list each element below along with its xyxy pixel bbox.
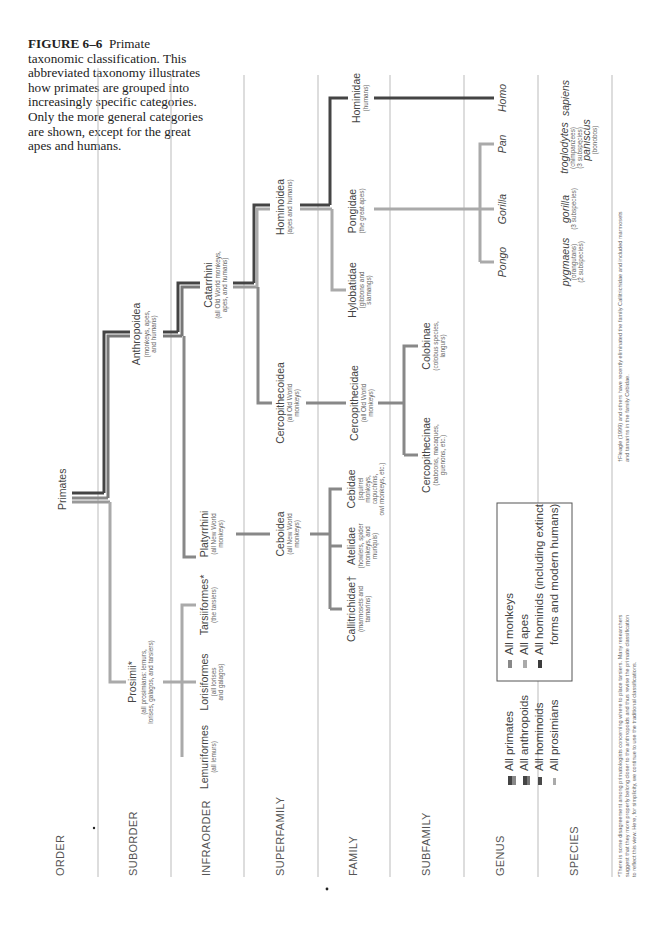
taxon-atelidae: Atelidae (howlers, spider monkeys, and m… [345, 523, 379, 569]
print-mark [93, 827, 95, 829]
footnotes: *There is some disagreement among primat… [617, 211, 637, 877]
taxon-hylobatidae: Hylobatidae (gibbons and siamangs) [346, 262, 373, 318]
svg-text:and galagos): and galagos) [217, 664, 225, 701]
svg-text:Hominidae: Hominidae [350, 73, 362, 123]
taxon-lemuriformes: Lemuriformes (all lemurs) [198, 725, 218, 789]
svg-text:monkeys): monkeys) [367, 389, 375, 417]
taxon-hominoidea: Hominoidea (apes and humans) [274, 179, 294, 235]
svg-text:Pongidae: Pongidae [346, 189, 358, 234]
taxon-labels: Primates Prosimii* (all prosimians: lemu… [56, 73, 599, 789]
rank-labels: ORDER SUBORDER INFRAORDER SUPERFAMILY FA… [54, 796, 580, 876]
svg-text:and humans): and humans) [150, 315, 158, 352]
taxon-primates: Primates [56, 469, 68, 510]
genus-homo: Homo [496, 84, 508, 112]
svg-text:(the great apes): (the great apes) [358, 188, 366, 233]
svg-text:tamarins): tamarins) [364, 596, 372, 623]
svg-text:Prosimii*: Prosimii* [126, 661, 138, 702]
taxon-cercopithecinae: Cercopithecinae (baboons, macaques, guen… [420, 417, 447, 493]
species-pygmaeus: pygmaeus (orangutans) (2 subspecies) [559, 237, 585, 287]
swatch-prosimians-icon [553, 778, 556, 785]
svg-text:(humans): (humans) [362, 85, 370, 112]
species-sapiens: sapiens [559, 79, 571, 116]
taxon-tarsiiformes: Tarsiiformes* (the tarsiers) [198, 575, 218, 636]
svg-text:(apes and humans): (apes and humans) [286, 179, 294, 234]
rank-genus: GENUS [494, 835, 506, 876]
svg-text:Colobinae: Colobinae [420, 322, 432, 369]
taxon-callitrichidae: Callitrichidae† (marmosets and tamarins) [345, 576, 372, 642]
svg-text:siamangs): siamangs) [365, 275, 373, 304]
species-gorilla: gorilla (3 subspecies) [559, 188, 578, 230]
print-mark [326, 888, 329, 891]
swatch-hominids-icon [538, 660, 542, 668]
svg-text:(2 subspecies): (2 subspecies) [577, 241, 585, 283]
taxon-anthropoidea: Anthropoidea (monkeys, apes, and humans) [130, 303, 158, 366]
legend-all-hominoids: All hominoids [533, 702, 545, 771]
svg-text:monkeys): monkeys) [293, 520, 301, 548]
rank-infraorder: INFRAORDER [200, 800, 212, 876]
svg-text:lorises, galagos, and tarsiers: lorises, galagos, and tarsiers) [147, 640, 155, 723]
svg-text:apes, and humans): apes, and humans) [221, 258, 229, 313]
genus-pongo: Pongo [496, 247, 508, 278]
svg-text:Catarrhini: Catarrhini [202, 262, 214, 308]
footnote-star-line3: to reflect this view. Here, for simplici… [631, 661, 637, 877]
taxon-lorisiformes: Lorisiformes (all lorises and galagos) [198, 653, 225, 710]
svg-text:Anthropoidea: Anthropoidea [130, 303, 142, 366]
genus-labels: Pongo Gorilla Pan Homo [496, 84, 508, 277]
species-paniscus: paniscus (bonobos) [580, 119, 599, 162]
taxon-ceboidea: Ceboidea (all New World monkeys) [274, 511, 301, 556]
svg-text:langurs): langurs) [439, 334, 447, 357]
legend-all-hominids-cont: forms and modern humans) [548, 504, 560, 645]
taxon-pongidae: Pongidae (the great apes) [346, 188, 366, 233]
svg-text:Atelidae: Atelidae [345, 527, 357, 565]
taxon-cebidae: Cebidae (squirrel monkeys, capuchins, ow… [345, 463, 386, 516]
svg-text:(3 subspecies): (3 subspecies) [570, 188, 578, 230]
legend-all-hominids: All hominids (including extinct [533, 503, 545, 655]
rank-superfamily: SUPERFAMILY [274, 796, 286, 876]
svg-text:Cebidae: Cebidae [345, 469, 357, 508]
footnote-star-line2: suggest that they more properly belong c… [624, 615, 630, 877]
svg-text:Hylobatidae: Hylobatidae [346, 262, 358, 318]
rank-order: ORDER [54, 835, 66, 876]
swatch-primates-icon [508, 776, 512, 785]
taxon-cercopithecidae: Cercopithecidae (all Old World monkeys) [348, 365, 375, 441]
taxon-hominidae: Hominidae (humans) [350, 73, 370, 123]
svg-text:Tarsiiformes*: Tarsiiformes* [198, 575, 210, 636]
svg-text:monkeys): monkeys) [217, 520, 225, 548]
rank-suborder: SUBORDER [127, 811, 139, 876]
taxon-platyrrhini: Platyrrhini (all New World monkeys) [198, 511, 225, 558]
svg-text:monkeys): monkeys) [293, 389, 301, 417]
footnote-star-line1: *There is some disagreement among primat… [617, 614, 623, 877]
svg-text:Hominoidea: Hominoidea [274, 179, 286, 235]
svg-text:(all lemurs): (all lemurs) [210, 741, 218, 773]
svg-text:guenons, etc.): guenons, etc.) [439, 435, 447, 476]
taxonomy-diagram: ORDER SUBORDER INFRAORDER SUPERFAMILY FA… [0, 0, 672, 927]
taxon-prosimii: Prosimii* (all prosimians: lemurs, loris… [126, 640, 155, 723]
rank-subfamily: SUBFAMILY [420, 812, 432, 876]
svg-text:Cercopithecidae: Cercopithecidae [348, 365, 360, 441]
svg-text:Cercopithecinae: Cercopithecinae [420, 417, 432, 493]
swatch-hominoids-icon [538, 777, 542, 785]
legend: All primates All anthropoids All hominoi… [497, 503, 572, 785]
rank-family: FAMILY [347, 836, 359, 876]
legend-all-prosimians: All prosimians [548, 699, 560, 771]
swatch-anthropoids-icon [523, 776, 527, 785]
svg-text:Lemuriformes: Lemuriformes [198, 725, 210, 789]
svg-text:Cercopithecoidea: Cercopithecoidea [274, 362, 286, 444]
svg-text:(the tarsiers): (the tarsiers) [210, 587, 218, 623]
taxon-cercopithecoidea: Cercopithecoidea (all Old World monkeys) [274, 362, 301, 444]
footnote-dagger-line1: †Fleagle (1999) and others have recently… [617, 211, 623, 462]
svg-text:(bonobos): (bonobos) [591, 126, 599, 155]
svg-text:Lorisiformes: Lorisiformes [198, 653, 210, 710]
svg-text:muriquis): muriquis) [371, 533, 379, 559]
legend-all-monkeys: All monkeys [503, 593, 515, 655]
swatch-monkeys-icon [508, 660, 512, 668]
swatch-apes-icon [523, 660, 527, 668]
footnote-dagger-line2: and tamarins in the family Cebidae. [624, 374, 630, 462]
legend-all-anthropoids: All anthropoids [518, 695, 530, 771]
svg-text:owl monkeys, etc.): owl monkeys, etc.) [378, 463, 386, 516]
legend-all-primates: All primates [503, 711, 515, 771]
rank-species: SPECIES [568, 826, 580, 876]
svg-text:Ceboidea: Ceboidea [274, 511, 286, 556]
genus-gorilla: Gorilla [496, 194, 508, 225]
taxon-colobinae: Colobinae (colobus species, langurs) [420, 321, 447, 371]
